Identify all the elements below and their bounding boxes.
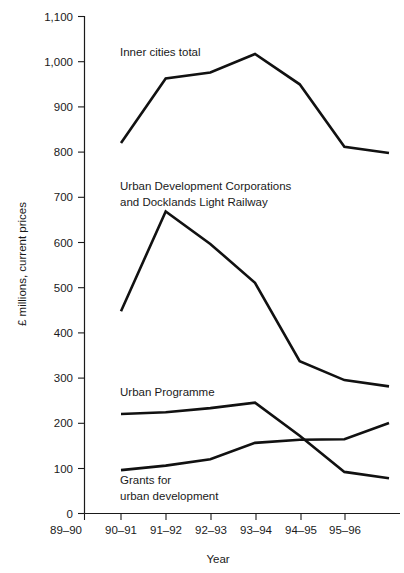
y-tick-label: 1,100 — [44, 11, 73, 23]
y-tick-label: 800 — [54, 146, 73, 158]
y-tick-label: 900 — [54, 101, 73, 113]
line-chart: 1,100 1,000 900 800 700 600 500 400 300 … — [0, 0, 404, 573]
y-tick-label: 400 — [54, 327, 73, 339]
chart-svg: 1,100 1,000 900 800 700 600 500 400 300 … — [0, 0, 404, 573]
x-axis-title: Year — [206, 553, 229, 565]
series-label-udc-dlr-line1: Urban Development Corporations — [120, 180, 292, 192]
y-tick-label: 200 — [54, 417, 73, 429]
series-line-inner-cities-total — [121, 54, 389, 153]
x-tick-label: 93–94 — [240, 524, 273, 536]
y-tick-label: 1,000 — [44, 56, 73, 68]
y-tick-label: 100 — [54, 463, 73, 475]
x-tick-label: 90–91 — [105, 524, 137, 536]
y-tick-label: 0 — [67, 508, 73, 520]
x-tick-marks — [85, 514, 346, 521]
y-tick-label: 700 — [54, 191, 73, 203]
series-label-grants-line1: Grants for — [120, 474, 171, 486]
x-tick-label: 89–90 — [50, 524, 82, 536]
x-tick-label: 95–96 — [329, 524, 361, 536]
series-line-grants-urban-development — [121, 423, 389, 470]
series-label-udc-dlr-line2: and Docklands Light Railway — [120, 196, 268, 208]
x-tick-label: 94–95 — [285, 524, 317, 536]
x-tick-labels: 89–90 90–91 91–92 92–93 93–94 94–95 95–9… — [50, 524, 361, 536]
series-line-udc-dlr — [121, 211, 389, 386]
x-tick-label: 91–92 — [150, 524, 182, 536]
series-label-urban-programme: Urban Programme — [120, 386, 215, 398]
series-label-inner-cities-total: Inner cities total — [120, 46, 201, 58]
series-label-grants-line2: urban development — [120, 490, 219, 502]
y-tick-label: 300 — [54, 372, 73, 384]
y-tick-labels: 1,100 1,000 900 800 700 600 500 400 300 … — [44, 11, 73, 520]
y-tick-marks — [78, 17, 85, 514]
y-tick-label: 500 — [54, 282, 73, 294]
y-tick-label: 600 — [54, 237, 73, 249]
y-axis-title: £ millions, current prices — [16, 202, 28, 326]
x-tick-label: 92–93 — [195, 524, 227, 536]
